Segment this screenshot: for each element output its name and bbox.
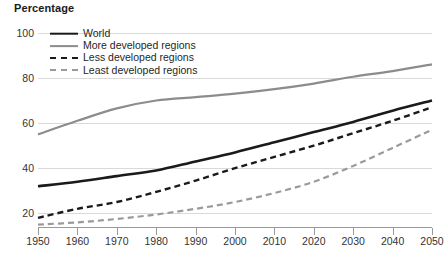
y-tick-label: 20 (22, 207, 34, 219)
x-tick-label: 1950 (26, 235, 49, 247)
x-tick-label: 1990 (184, 235, 207, 247)
legend-label-more-developed: More developed regions (83, 40, 196, 52)
x-tick-label: 2000 (223, 235, 246, 247)
x-tick-label: 2020 (302, 235, 325, 247)
series-line-least-developed-regions (38, 130, 432, 225)
legend-item-world: World (50, 28, 197, 40)
series-line-less-developed-regions (38, 107, 432, 218)
chart-title: Percentage (14, 2, 74, 14)
x-tick (77, 228, 78, 235)
x-axis-ticks (38, 228, 432, 235)
chart-figure: Percentage 10080604020 19501960197019801… (0, 0, 444, 269)
x-tick (353, 228, 354, 235)
x-tick (38, 228, 39, 235)
legend-label-less-developed: Less developed regions (83, 52, 194, 64)
x-tick (393, 228, 394, 235)
x-tick (117, 228, 118, 235)
x-axis-labels: 1950196019701980199020002010202020302040… (0, 235, 444, 249)
legend-item-less-developed: Less developed regions (50, 52, 197, 64)
x-tick (235, 228, 236, 235)
x-tick (314, 228, 315, 235)
y-tick-label: 100 (16, 27, 34, 39)
y-axis-labels: 10080604020 (0, 26, 34, 228)
legend-swatch-more-developed-icon (50, 40, 78, 51)
x-tick-label: 2040 (381, 235, 404, 247)
x-tick (156, 228, 157, 235)
x-tick-label: 1970 (105, 235, 128, 247)
chart-legend: World More developed regions Less develo… (50, 28, 197, 77)
x-tick (274, 228, 275, 235)
legend-label-least-developed: Least developed regions (83, 65, 197, 77)
x-tick-label: 1960 (66, 235, 89, 247)
legend-label-world: World (83, 28, 110, 40)
y-tick-label: 80 (22, 72, 34, 84)
x-tick-label: 2010 (263, 235, 286, 247)
x-tick-label: 1980 (145, 235, 168, 247)
x-tick-label: 2030 (342, 235, 365, 247)
legend-swatch-least-developed-icon (50, 65, 78, 76)
legend-swatch-less-developed-icon (50, 53, 78, 64)
legend-swatch-world-icon (50, 28, 78, 39)
x-tick-label: 2050 (420, 235, 443, 247)
legend-item-more-developed: More developed regions (50, 40, 197, 52)
y-tick-label: 60 (22, 117, 34, 129)
legend-item-least-developed: Least developed regions (50, 65, 197, 77)
x-tick (432, 228, 433, 235)
y-tick-label: 40 (22, 162, 34, 174)
x-tick (196, 228, 197, 235)
